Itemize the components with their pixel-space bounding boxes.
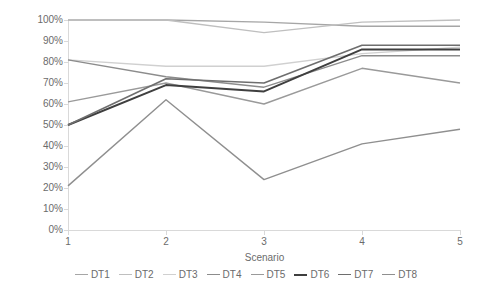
y-tick-mark <box>64 167 68 168</box>
y-axis-labels: 0%10%20%30%40%50%60%70%80%90%100% <box>0 0 63 299</box>
legend-item-dt4[interactable]: DT4 <box>207 269 242 280</box>
y-tick-mark <box>64 62 68 63</box>
legend-item-dt7[interactable]: DT7 <box>338 269 373 280</box>
x-tick-mark <box>362 231 363 235</box>
series-line-dt7 <box>68 45 460 125</box>
legend-swatch-icon <box>294 274 307 276</box>
x-tick-mark <box>68 231 69 235</box>
series-line-dt5 <box>68 68 460 104</box>
y-tick-mark <box>64 209 68 210</box>
y-tick-label: 30% <box>3 162 63 172</box>
x-tick-mark <box>460 231 461 235</box>
y-tick-mark <box>64 125 68 126</box>
legend-swatch-icon <box>163 274 176 275</box>
y-tick-label: 100% <box>3 15 63 25</box>
y-tick-label: 10% <box>3 204 63 214</box>
legend-swatch-icon <box>251 274 264 275</box>
legend-swatch-icon <box>119 274 132 275</box>
y-tick-mark <box>64 20 68 21</box>
x-axis-title: Scenario <box>68 252 461 263</box>
x-tick-mark <box>264 231 265 235</box>
legend-label: DT4 <box>223 269 242 280</box>
series-line-dt8 <box>68 100 460 186</box>
legend-item-dt6[interactable]: DT6 <box>294 269 329 280</box>
legend-item-dt5[interactable]: DT5 <box>251 269 286 280</box>
legend-swatch-icon <box>382 274 395 275</box>
legend-label: DT3 <box>179 269 198 280</box>
legend-label: DT5 <box>267 269 286 280</box>
legend-label: DT8 <box>398 269 417 280</box>
y-tick-label: 70% <box>3 78 63 88</box>
x-tick-mark <box>166 231 167 235</box>
y-tick-label: 40% <box>3 141 63 151</box>
y-tick-label: 60% <box>3 99 63 109</box>
y-tick-mark <box>64 146 68 147</box>
line-chart: 0%10%20%30%40%50%60%70%80%90%100% Scenar… <box>0 0 492 299</box>
x-tick-label: 1 <box>48 236 88 247</box>
y-tick-mark <box>64 188 68 189</box>
legend-swatch-icon <box>207 274 220 275</box>
legend-label: DT6 <box>310 269 329 280</box>
legend-item-dt3[interactable]: DT3 <box>163 269 198 280</box>
legend-item-dt8[interactable]: DT8 <box>382 269 417 280</box>
x-tick-label: 2 <box>146 236 186 247</box>
x-tick-label: 3 <box>244 236 284 247</box>
chart-legend: DT1DT2DT3DT4DT5DT6DT7DT8 <box>0 269 492 280</box>
plot-area <box>68 20 460 230</box>
y-tick-mark <box>64 104 68 105</box>
x-tick-label: 4 <box>342 236 382 247</box>
y-tick-label: 20% <box>3 183 63 193</box>
legend-label: DT2 <box>135 269 154 280</box>
series-canvas <box>68 20 460 230</box>
x-tick-label: 5 <box>440 236 480 247</box>
legend-swatch-icon <box>75 274 88 275</box>
legend-item-dt1[interactable]: DT1 <box>75 269 110 280</box>
legend-swatch-icon <box>338 274 351 275</box>
legend-label: DT1 <box>91 269 110 280</box>
y-tick-label: 90% <box>3 36 63 46</box>
y-tick-mark <box>64 83 68 84</box>
legend-label: DT7 <box>354 269 373 280</box>
y-tick-label: 0% <box>3 225 63 235</box>
y-tick-label: 50% <box>3 120 63 130</box>
y-tick-mark <box>64 41 68 42</box>
legend-item-dt2[interactable]: DT2 <box>119 269 154 280</box>
y-tick-label: 80% <box>3 57 63 67</box>
